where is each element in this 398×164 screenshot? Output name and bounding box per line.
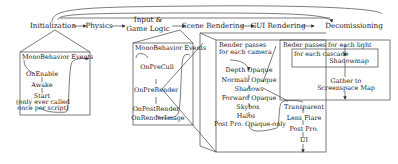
pass-ui: UI [300,137,308,144]
stage-decomissioning: Decomissioning [325,22,383,29]
event-awake: Awake [31,82,52,89]
gather-line2: Screenspace Map [317,85,375,92]
event-onprecull: OnPreCull [140,64,174,71]
stage-initialization: Initialization [30,22,76,29]
pass-halos: Halos [237,113,256,120]
init-box-title: MonoBehavior Events [22,54,93,61]
stage-gui-rendering: GUI Rendering [250,22,305,29]
pass-skybox: Skybox [236,104,259,111]
pass-post-pro-opaque: Post Pro. Opaque-only [214,121,286,128]
pass-forward-opaque: Forward Opaque [222,95,277,102]
stage-input-line1: Input & [134,16,162,23]
event-onenable: OnEnable [26,71,58,78]
pass-shadows: Shadows [235,86,264,93]
stage-physics: Physics [85,22,112,29]
shadowmap-label: Shadowmap [329,58,369,65]
stage-scene-rendering: Scene Rendering [182,22,244,29]
scene-box-title: MonoBehavior Events [135,45,206,52]
event-onrenderimage: OnRenderImage [131,115,184,122]
light-box-title: Reder passes for each light [283,42,372,49]
start-note-line2: once per script) [17,105,68,112]
event-onprerender: OnPreRender [134,87,178,94]
pass-transparent: Transparent [284,104,324,111]
camera-box-title-line2: for each camera [219,49,272,56]
stage-input-line2: Game Logic [126,25,169,32]
pass-post-pro: Post Pro. [290,126,319,133]
pass-lens-flare: Lens Flare [287,115,322,122]
event-onpostrender: OnPostRender [133,106,180,113]
pass-normals-opaque: Normals Opaque [222,77,277,84]
pass-depth-opaque: Depth Opaque [226,67,273,74]
